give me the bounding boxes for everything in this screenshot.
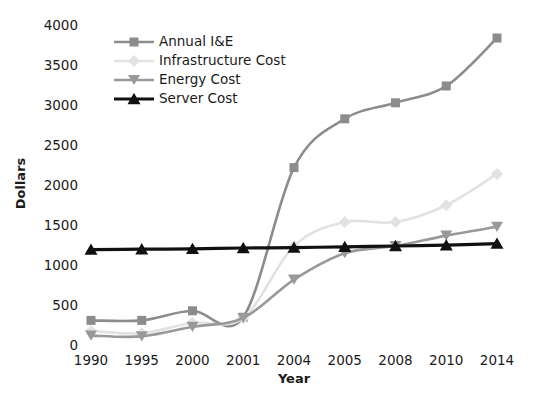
legend-item[interactable]: Infrastructure Cost [113,51,286,70]
x-axis-title: Year [264,371,324,386]
line-chart: Dollars Year 050010001500200025003000350… [0,0,541,401]
data-point-marker [290,163,299,172]
series-energy-cost [85,222,503,342]
data-point-marker [340,114,349,123]
legend-marker-icon [113,89,155,108]
y-tick-label: 3000 [30,97,78,113]
data-point-marker [391,98,400,107]
data-point-marker [442,82,451,91]
y-tick-label: 1500 [30,217,78,233]
y-tick-label: 4000 [30,17,78,33]
legend-marker-icon [113,32,155,51]
x-tick-label: 2014 [467,352,527,368]
chart-legend: Annual I&EInfrastructure CostEnergy Cost… [113,32,286,108]
legend-label: Annual I&E [159,32,233,51]
y-tick-label: 1000 [30,257,78,273]
data-point-marker [137,316,146,325]
y-tick-label: 2500 [30,137,78,153]
legend-item[interactable]: Energy Cost [113,70,286,89]
legend-item[interactable]: Annual I&E [113,32,286,51]
y-tick-label: 500 [30,297,78,313]
data-point-marker [87,316,96,325]
data-point-marker [390,216,402,228]
data-point-marker [188,306,197,315]
legend-label: Server Cost [159,89,238,108]
y-tick-label: 3500 [30,57,78,73]
legend-item[interactable]: Server Cost [113,89,286,108]
data-point-marker [493,34,502,43]
legend-label: Infrastructure Cost [159,51,286,70]
legend-label: Energy Cost [159,70,241,89]
legend-marker-icon [113,70,155,89]
series-line [91,174,497,334]
y-tick-label: 2000 [30,177,78,193]
y-tick-label: 0 [30,337,78,353]
legend-marker-icon [113,51,155,70]
data-point-marker [339,216,351,228]
y-axis-title: Dollars [13,154,28,214]
data-point-marker [440,199,452,211]
